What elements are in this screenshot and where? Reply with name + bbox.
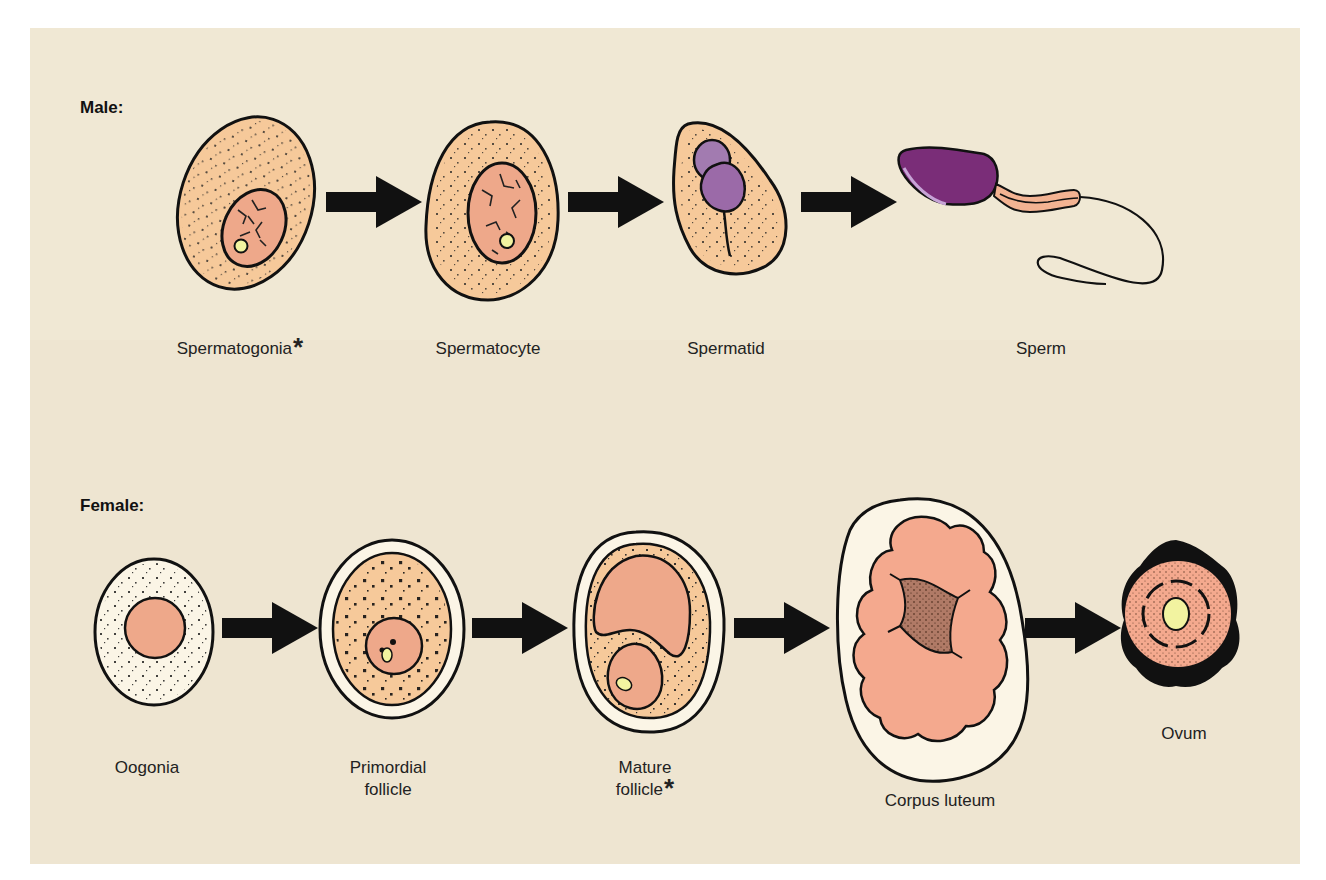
spermatogonia-cell xyxy=(156,99,336,307)
corpus-luteum xyxy=(837,499,1027,782)
label-spermatocyte: Spermatocyte xyxy=(436,338,541,360)
label-oogonia: Oogonia xyxy=(115,757,179,779)
male-section-title: Male: xyxy=(80,98,123,118)
label-corpus-luteum: Corpus luteum xyxy=(885,790,996,812)
female-section-title: Female: xyxy=(80,496,144,516)
arrow-icon xyxy=(222,602,318,654)
sperm-cell xyxy=(899,147,1164,284)
spermatocyte-cell xyxy=(426,122,558,300)
label-mature-follicle: Mature follicle* xyxy=(616,757,674,801)
label-ovum: Ovum xyxy=(1161,723,1206,745)
asterisk-marker: * xyxy=(293,332,303,362)
spermatid-cell xyxy=(674,123,787,274)
mature-follicle xyxy=(574,532,724,732)
label-spermatogonia: Spermatogonia* xyxy=(177,338,303,360)
label-primordial-follicle: Primordial follicle xyxy=(350,757,427,801)
arrow-icon xyxy=(326,176,422,228)
arrow-icon xyxy=(801,176,897,228)
label-spermatid: Spermatid xyxy=(687,338,764,360)
arrow-icon xyxy=(472,602,568,654)
asterisk-marker: * xyxy=(664,773,674,803)
oogonia-cell xyxy=(95,559,213,705)
label-sperm: Sperm xyxy=(1016,338,1066,360)
ovum-cell xyxy=(1121,540,1240,687)
primordial-follicle xyxy=(320,540,464,718)
diagram-artwork xyxy=(0,0,1326,880)
arrow-icon xyxy=(568,176,664,228)
arrow-icon xyxy=(734,602,830,654)
arrow-icon xyxy=(1025,602,1121,654)
